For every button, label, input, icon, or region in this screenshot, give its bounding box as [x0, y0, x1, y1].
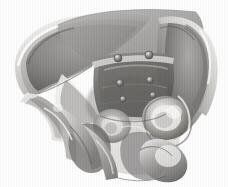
render-haze — [0, 0, 228, 187]
pelvis-3d-viewport[interactable] — [0, 0, 228, 187]
pelvis-render-canvas — [0, 0, 228, 187]
